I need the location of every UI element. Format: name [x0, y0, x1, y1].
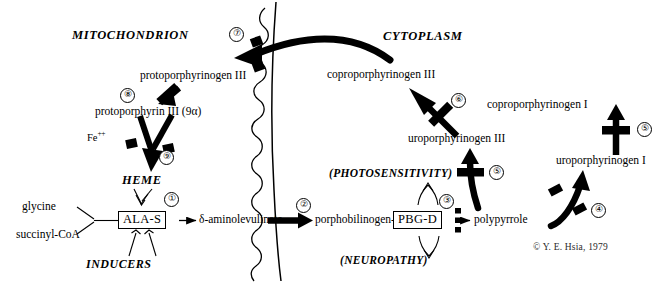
compound-label-uroporphyrinogen-i: uroporphyrinogen I	[556, 155, 646, 167]
compound-label-aminolevulinate: δ-aminolevulinate	[199, 214, 282, 226]
step-marker-5b[interactable]: ⑤	[489, 165, 504, 180]
compound-label-coproporphyrinogen-i: coproporphyrinogen I	[487, 99, 588, 111]
compound-label-protoporphyrin-iii: protoporphyrin III (9α)	[95, 106, 201, 118]
enzyme-box-pbg-d[interactable]: PBG-D	[393, 211, 442, 229]
compound-label-porphobilinogen: porphobilinogen-	[315, 214, 395, 226]
step-marker-5a[interactable]: ⑤	[637, 122, 652, 137]
compound-label-glycine: glycine	[22, 201, 56, 213]
step-marker-9[interactable]: ⑨	[159, 150, 174, 165]
compound-label-coproporphyrinogen-iii: coproporphyrinogen III	[327, 69, 435, 81]
compartment-label-cytoplasm: CYTOPLASM	[383, 30, 463, 43]
step-marker-8[interactable]: ⑧	[120, 88, 135, 103]
compound-label-succinyl-coa: succinyl-CoA	[16, 229, 80, 241]
compound-label-iron: Fe++	[87, 130, 105, 143]
compound-label-uroporphyrinogen-iii: uroporphyrinogen III	[408, 133, 505, 145]
step-marker-1[interactable]: ①	[164, 192, 179, 207]
compartment-label-mitochondrion: MITOCHONDRION	[72, 29, 189, 42]
heme-biosynthesis-diagram: MITOCHONDRION CYTOPLASM protoporphyrinog…	[0, 0, 660, 283]
compound-label-heme: HEME	[122, 174, 162, 187]
step-marker-4[interactable]: ④	[591, 203, 606, 218]
block-bar-step5b	[457, 168, 484, 177]
arrow-proto3-to-protoporphyrin-step8	[156, 83, 180, 106]
block-bar-step5a	[602, 126, 630, 135]
arrow-substrates-converge	[77, 207, 118, 234]
arrow-heme-feedback-step1	[134, 189, 152, 205]
iron-symbol: Fe	[87, 132, 98, 143]
step-marker-3[interactable]: ③	[439, 194, 454, 209]
compound-label-polypyrrole: polypyrrole	[474, 214, 528, 226]
step-marker-7[interactable]: ⑦	[229, 27, 244, 42]
compound-label-protoporphyrinogen-iii: protoporphyrinogen III	[140, 70, 246, 82]
arrow-inducers-step	[129, 230, 156, 256]
symptom-label-neuropathy: (NEUROPATHY)	[340, 255, 428, 267]
arrow-pbg-to-uro3-step5b	[457, 148, 484, 208]
label-inducers: INDUCERS	[86, 258, 151, 270]
arrow-uro3-to-copro3-step6	[409, 88, 457, 136]
copyright-notice: © Y. E. Hsia, 1979	[533, 243, 608, 253]
arrow-photosensitivity	[418, 183, 438, 205]
arrow-polypyrrole-to-uro1-step4	[548, 170, 590, 226]
symptom-label-photosensitivity: (PHOTOSENSITIVITY)	[329, 168, 452, 180]
step-marker-6[interactable]: ⑥	[451, 93, 466, 108]
block-pbgd-step3	[455, 208, 470, 233]
step-marker-2[interactable]: ②	[296, 198, 311, 213]
arrow-uro1-to-copro1-step5a	[602, 104, 630, 155]
enzyme-box-ala-s[interactable]: ALA-S	[118, 211, 166, 229]
iron-charge: ++	[98, 129, 105, 138]
